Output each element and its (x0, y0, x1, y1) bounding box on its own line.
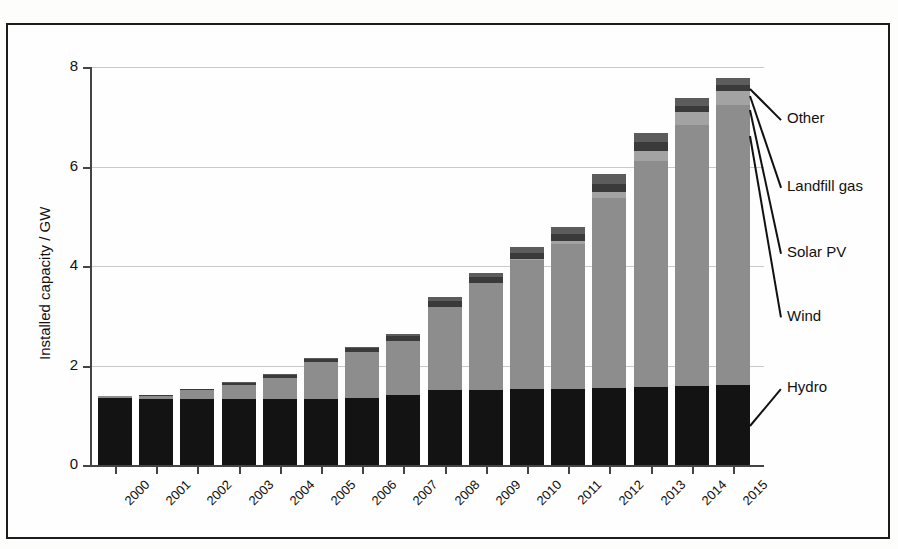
bar-segment-wind (469, 283, 503, 390)
y-axis-tick-label: 6 (52, 157, 78, 174)
bar-segment-wind (551, 244, 585, 389)
x-tick-2001 (156, 466, 158, 474)
y-tick-2 (83, 366, 91, 368)
bar-segment-other (675, 98, 709, 105)
x-tick-2013 (651, 466, 653, 474)
x-axis-tick-label: 2000 (121, 477, 152, 508)
bar-2009[interactable] (469, 273, 503, 465)
bar-segment-wind (675, 125, 709, 386)
x-axis-tick-label: 2009 (492, 477, 523, 508)
bar-segment-hydro (263, 399, 297, 465)
bar-segment-wind (304, 362, 338, 399)
bar-segment-wind (716, 105, 750, 385)
bar-segment-other (592, 174, 626, 183)
bar-segment-wind (634, 161, 668, 387)
bar-2004[interactable] (263, 374, 297, 465)
x-tick-2003 (239, 466, 241, 474)
gridline-y-8 (90, 67, 764, 68)
callout-label-other: Other (787, 109, 825, 126)
bar-segment-hydro (428, 390, 462, 465)
x-axis-tick-label: 2003 (245, 477, 276, 508)
y-axis-tick-label: 2 (52, 356, 78, 373)
bar-segment-hydro (139, 399, 173, 465)
bar-segment-wind (263, 378, 297, 399)
x-tick-2009 (486, 466, 488, 474)
bar-segment-landfill-gas (592, 184, 626, 192)
bar-segment-landfill-gas (551, 234, 585, 241)
x-axis-tick-label: 2004 (286, 477, 317, 508)
bar-segment-other (634, 133, 668, 142)
bar-segment-hydro (675, 386, 709, 465)
callout-leader-wind (749, 136, 782, 318)
x-tick-2008 (445, 466, 447, 474)
bar-2003[interactable] (222, 382, 256, 465)
bar-segment-wind (345, 352, 379, 398)
x-tick-2002 (197, 466, 199, 474)
x-axis-tick-label: 2002 (204, 477, 235, 508)
callout-leader-landfill-gas (749, 96, 782, 188)
x-tick-2011 (568, 466, 570, 474)
bar-segment-hydro (510, 389, 544, 465)
bar-segment-hydro (386, 395, 420, 465)
y-axis-tick-label: 8 (52, 57, 78, 74)
bar-2015[interactable] (716, 78, 750, 465)
bar-segment-hydro (592, 388, 626, 465)
y-tick-6 (83, 167, 91, 169)
y-axis-tick-label: 0 (52, 455, 78, 472)
x-tick-2000 (115, 466, 117, 474)
x-tick-2010 (527, 466, 529, 474)
bar-segment-hydro (304, 399, 338, 465)
bar-segment-wind (386, 341, 420, 396)
bar-2010[interactable] (510, 247, 544, 465)
bar-segment-other (551, 227, 585, 234)
bar-2000[interactable] (98, 396, 132, 465)
bar-segment-hydro (180, 399, 214, 465)
x-tick-2015 (733, 466, 735, 474)
bar-2013[interactable] (634, 133, 668, 465)
x-axis (90, 465, 764, 467)
bar-2012[interactable] (592, 174, 626, 465)
x-axis-tick-label: 2013 (657, 477, 688, 508)
callout-label-solar-pv: Solar PV (787, 243, 846, 260)
x-axis-tick-label: 2001 (163, 477, 194, 508)
x-tick-2004 (280, 466, 282, 474)
callout-label-landfill-gas: Landfill gas (787, 177, 863, 194)
x-axis-tick-label: 2005 (327, 477, 358, 508)
bar-2001[interactable] (139, 395, 173, 465)
y-tick-4 (83, 266, 91, 268)
y-axis-title: Installed capacity / GW (36, 207, 53, 360)
bar-2007[interactable] (386, 334, 420, 465)
callout-leader-hydro (749, 388, 782, 426)
bar-2005[interactable] (304, 358, 338, 465)
bar-2011[interactable] (551, 227, 585, 465)
bar-segment-solar-pv (634, 151, 668, 161)
bar-2002[interactable] (180, 389, 214, 465)
bar-segment-hydro (551, 389, 585, 465)
x-axis-tick-label: 2014 (698, 477, 729, 508)
callout-label-wind: Wind (787, 307, 821, 324)
x-tick-2007 (403, 466, 405, 474)
bar-segment-hydro (222, 399, 256, 465)
bar-segment-solar-pv (675, 112, 709, 125)
bar-2006[interactable] (345, 347, 379, 465)
bar-segment-wind (510, 260, 544, 389)
bar-segment-wind (180, 390, 214, 398)
x-axis-tick-label: 2006 (369, 477, 400, 508)
x-axis-tick-label: 2008 (451, 477, 482, 508)
x-axis-tick-label: 2011 (574, 477, 604, 507)
x-axis-tick-label: 2015 (739, 477, 770, 508)
bar-segment-wind (592, 198, 626, 388)
callout-label-hydro: Hydro (787, 378, 827, 395)
bar-segment-wind (222, 385, 256, 399)
bar-segment-wind (428, 307, 462, 391)
x-tick-2014 (692, 466, 694, 474)
bar-2014[interactable] (675, 98, 709, 465)
bar-segment-hydro (469, 390, 503, 465)
y-tick-0 (83, 465, 91, 467)
y-tick-8 (83, 67, 91, 69)
bar-segment-other (716, 78, 750, 85)
x-axis-tick-label: 2007 (410, 477, 441, 508)
x-tick-2005 (321, 466, 323, 474)
x-axis-tick-label: 2012 (616, 477, 647, 508)
bar-2008[interactable] (428, 297, 462, 465)
